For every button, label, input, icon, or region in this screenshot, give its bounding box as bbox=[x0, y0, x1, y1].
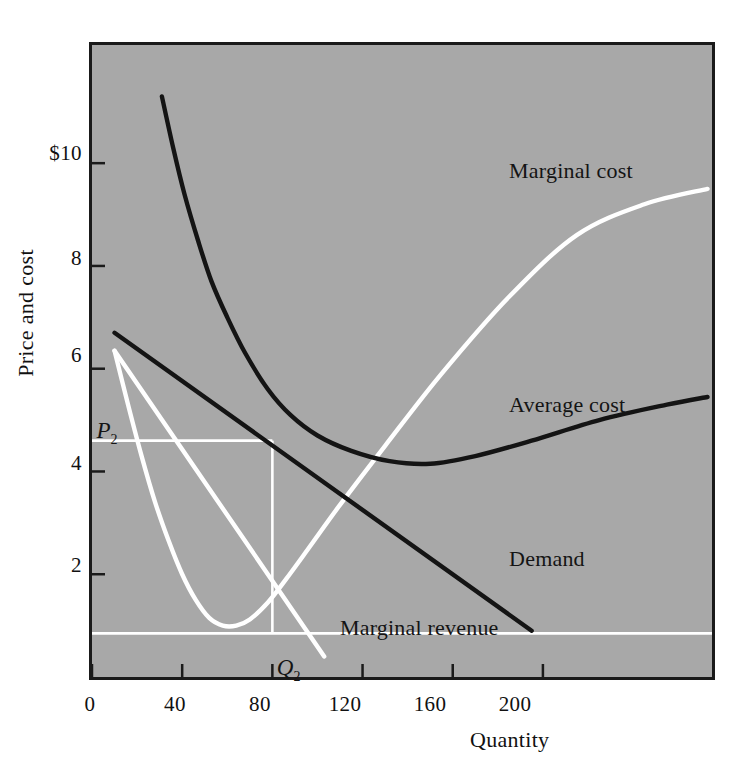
label-marginal-cost: Marginal cost bbox=[509, 158, 633, 184]
p2-letter: P bbox=[97, 418, 111, 443]
x-axis-title: Quantity bbox=[470, 727, 670, 753]
plot-canvas bbox=[92, 45, 712, 677]
plot-area: Marginal cost Average cost Demand Margin… bbox=[89, 42, 715, 680]
x-tick-80: 80 bbox=[230, 694, 290, 715]
monopoly-cost-revenue-chart: Price and cost $10 8 6 4 2 0 40 80 120 1… bbox=[0, 0, 754, 781]
label-average-cost: Average cost bbox=[509, 392, 625, 418]
q2-subscript: 2 bbox=[293, 669, 300, 684]
p2-subscript: 2 bbox=[111, 431, 118, 446]
series-marginal-revenue bbox=[115, 351, 325, 657]
label-price-p2: P2 bbox=[97, 418, 118, 448]
label-quantity-q2: Q2 bbox=[277, 655, 301, 685]
x-tick-200: 200 bbox=[485, 694, 545, 715]
x-tick-0: 0 bbox=[60, 694, 120, 715]
q2-letter: Q bbox=[277, 655, 294, 680]
series-average-cost bbox=[162, 96, 708, 464]
x-tick-40: 40 bbox=[145, 694, 205, 715]
label-marginal-revenue: Marginal revenue bbox=[340, 615, 499, 641]
series-demand bbox=[115, 333, 532, 631]
label-demand: Demand bbox=[509, 546, 585, 572]
x-tick-120: 120 bbox=[315, 694, 375, 715]
x-tick-160: 160 bbox=[400, 694, 460, 715]
